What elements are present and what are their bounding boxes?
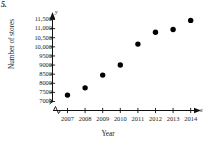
- plot-canvas: [0, 0, 209, 145]
- data-point: [153, 30, 158, 35]
- data-point: [82, 85, 87, 90]
- data-point: [170, 27, 175, 32]
- axes: [50, 12, 202, 114]
- data-point: [118, 62, 123, 67]
- y-axis-arrowhead: [50, 12, 55, 19]
- data-point: [100, 72, 105, 77]
- x-axis-arrowhead: [194, 108, 201, 113]
- data-point-series: [65, 18, 194, 98]
- data-point: [188, 18, 193, 23]
- scatter-plot-figure: 5. Number of stores Year y x 11,50011,00…: [0, 0, 209, 145]
- data-point: [135, 41, 140, 46]
- data-point: [65, 92, 70, 97]
